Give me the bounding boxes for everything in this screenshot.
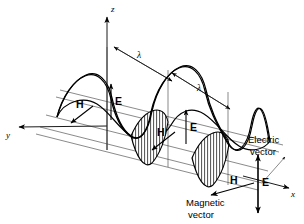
magnetic-label-3: H bbox=[230, 174, 238, 186]
y-axis-label: y bbox=[5, 130, 10, 140]
electric-vector-line1: Electric bbox=[248, 134, 279, 145]
magnetic-label-2: H bbox=[157, 126, 165, 138]
z-axis-label: z bbox=[110, 4, 115, 14]
electric-label-1: E bbox=[115, 95, 122, 107]
lambda-label-1: λ bbox=[136, 50, 141, 60]
lambda-label-2: λ bbox=[196, 83, 201, 93]
magnetic-vector-line1: Magnetic bbox=[186, 197, 225, 208]
em-wave-figure: z y x λ λ bbox=[0, 0, 304, 224]
electric-vector-caption: Electric vector bbox=[248, 134, 279, 157]
em-wave-diagram: z y x λ λ bbox=[0, 0, 304, 224]
x-axis-label: x bbox=[290, 189, 295, 199]
electric-label-2: E bbox=[190, 121, 197, 133]
magnetic-label-1: H bbox=[76, 98, 84, 110]
magnetic-vector-line2: vector bbox=[188, 209, 214, 220]
electric-vector-line2: vector bbox=[250, 146, 276, 157]
